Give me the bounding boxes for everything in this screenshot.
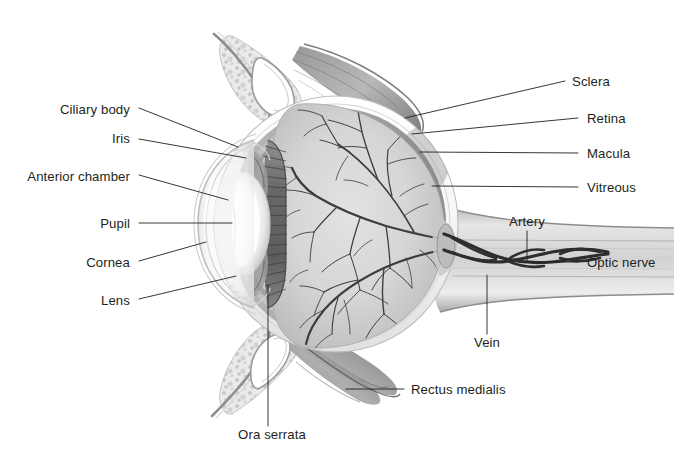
label-pupil: Pupil: [100, 217, 130, 230]
label-cornea: Cornea: [86, 256, 130, 269]
label-lens: Lens: [101, 294, 130, 307]
leader-line-ciliary-body: [139, 108, 238, 147]
label-optic-nerve: Optic nerve: [587, 256, 656, 269]
label-macula: Macula: [587, 147, 630, 160]
label-rectus-medialis: Rectus medialis: [411, 383, 506, 396]
leader-line-sclera: [405, 81, 565, 118]
label-vitreous: Vitreous: [587, 181, 636, 194]
anterior-chamber-and-cornea: [194, 134, 256, 314]
leader-line-iris: [139, 139, 246, 158]
leader-line-retina: [412, 118, 578, 134]
leader-line-macula: [420, 152, 578, 153]
leader-line-cornea: [139, 242, 206, 261]
label-retina: Retina: [587, 112, 626, 125]
leader-line-vitreous: [432, 186, 578, 187]
label-sclera: Sclera: [572, 75, 610, 88]
eye-anatomy-illustration: [0, 0, 674, 464]
label-iris: Iris: [112, 132, 130, 145]
label-vein: Vein: [474, 336, 500, 349]
label-anterior-chamber: Anterior chamber: [27, 170, 130, 183]
eye-anatomy-figure: Ciliary bodyIrisAnterior chamberPupilCor…: [0, 0, 674, 464]
label-artery: Artery: [509, 215, 545, 228]
label-ora-serrata: Ora serrata: [238, 428, 306, 441]
label-ciliary-body: Ciliary body: [60, 103, 130, 116]
